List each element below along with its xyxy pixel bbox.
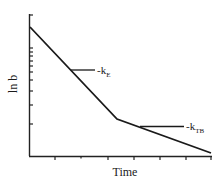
x-axis-label: Time <box>113 165 138 179</box>
annotation-kTB: -kTB <box>186 120 204 135</box>
annotation-kE-sub: E <box>106 71 110 79</box>
y-axis-label: ln b <box>6 75 20 93</box>
chart-svg: -kE -kTB Time ln b <box>0 0 218 185</box>
annotation-kTB-sub: TB <box>195 127 204 135</box>
chart: -kE -kTB Time ln b <box>0 0 218 185</box>
data-line <box>30 27 211 153</box>
annotation-kE: -kE <box>97 64 110 79</box>
